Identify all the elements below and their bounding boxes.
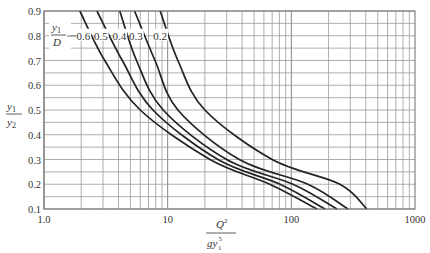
series-label: 0.3: [129, 30, 143, 42]
y-tick-label: 0.3: [28, 155, 41, 166]
svg-text:gy51: gy51: [207, 235, 222, 252]
y-tick-label: 0.2: [28, 179, 41, 190]
series-label: 0.2: [153, 30, 167, 42]
y-tick-labels: 0.90.80.70.60.50.40.30.20.1: [28, 6, 42, 215]
y-tick-label: 0.6: [28, 80, 41, 91]
y-tick-label: 0.8: [28, 31, 41, 42]
legend-denominator: D: [52, 36, 61, 48]
svg-text:Q2: Q2: [216, 217, 228, 230]
y-tick-label: 0.7: [28, 56, 41, 67]
svg-text:y2: y2: [6, 116, 16, 130]
series-label: 0.5: [94, 30, 108, 42]
x-tick-labels: 1.0101001000: [37, 214, 425, 225]
y-tick-label: 0.4: [28, 130, 42, 141]
chart: 0.90.80.70.60.50.40.30.20.1 1.0101001000…: [0, 0, 430, 253]
series-label: 0.4: [112, 30, 126, 42]
series-labels: 0.60.50.40.30.2: [77, 29, 168, 42]
legend: y1 D 0.60.50.40.30.2: [49, 21, 168, 49]
series-label: 0.6: [77, 30, 91, 42]
x-axis-label: Q2 gy51: [206, 217, 236, 252]
y-tick-label: 0.5: [28, 105, 41, 116]
y-axis-label: y1 y2: [6, 100, 22, 130]
x-tick-label: 1.0: [37, 214, 50, 225]
y-tick-label: 0.9: [28, 6, 41, 17]
x-tick-label: 10: [162, 214, 173, 225]
svg-text:y1: y1: [6, 100, 16, 114]
x-tick-label: 1000: [405, 214, 426, 225]
x-tick-label: 100: [283, 214, 299, 225]
